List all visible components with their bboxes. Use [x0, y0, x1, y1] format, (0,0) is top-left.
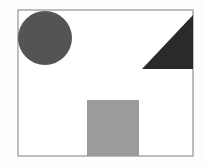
diagram-canvas: [0, 0, 205, 166]
square-shape: [87, 100, 139, 156]
circle-shape: [18, 11, 72, 65]
shapes-diagram: [0, 0, 205, 166]
